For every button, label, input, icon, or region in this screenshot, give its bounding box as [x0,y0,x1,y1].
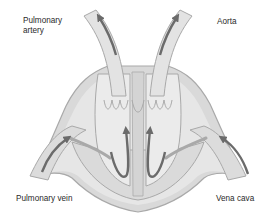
label-aorta: Aorta [217,17,237,27]
label-vena-cava: Vena cava [216,194,254,204]
label-pulmonary-vein: Pulmonary vein [16,194,72,204]
label-pulmonary-artery: Pulmonary artery [23,16,73,36]
septum [132,72,144,196]
heart-diagram: Pulmonary artery Aorta Pulmonary vein Ve… [0,0,276,223]
